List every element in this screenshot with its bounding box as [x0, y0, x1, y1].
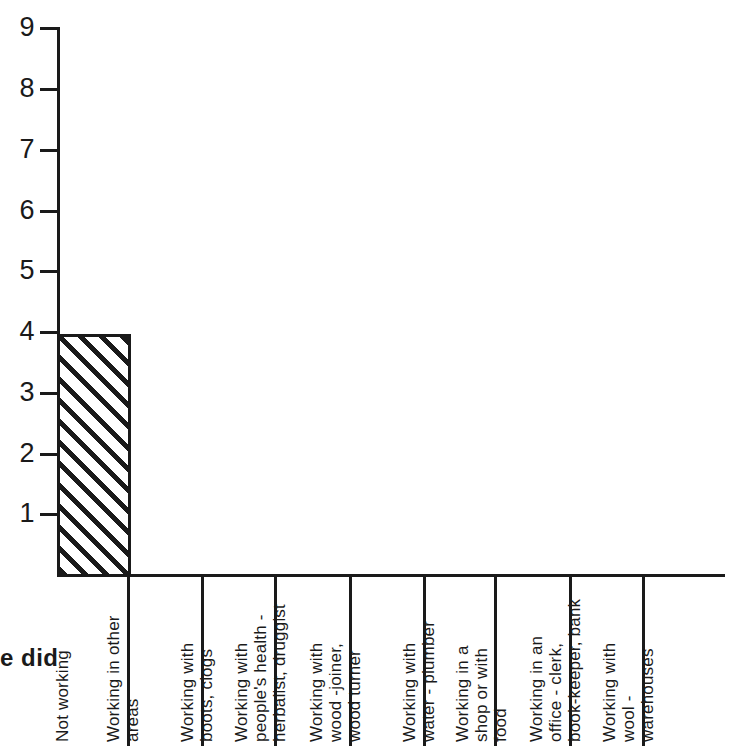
- category-line: areas: [123, 615, 142, 742]
- category-line: wood turner: [345, 643, 364, 742]
- category-label-working-with-peoples-health: Working with people's health - herbalist…: [232, 604, 289, 742]
- category-line: food: [491, 645, 510, 742]
- category-line: wood -joiner,: [326, 643, 345, 742]
- category-line: Working with: [600, 643, 619, 742]
- category-line: Working in an: [527, 599, 546, 742]
- y-tick-mark-1: [40, 513, 58, 516]
- category-label-working-in-an-office: Working in an office - clerk, book-keepe…: [527, 599, 584, 742]
- y-tick-label-6: 6: [0, 197, 34, 224]
- axis-title-partial: e did: [0, 644, 59, 672]
- bar-not-working: [57, 334, 131, 577]
- y-tick-mark-9: [40, 27, 58, 30]
- category-line: Working with: [232, 604, 251, 742]
- bar-chart: 9 8 7 6 5 4 3 2 1 Not working Working in…: [0, 0, 742, 746]
- category-line: herbalist, druggist: [270, 604, 289, 742]
- x-axis-line: [57, 574, 725, 577]
- y-tick-mark-8: [40, 88, 58, 91]
- y-tick-mark-6: [40, 210, 58, 213]
- category-line: office - clerk,: [546, 599, 565, 742]
- category-line: Working with: [307, 643, 326, 742]
- category-label-working-in-a-shop-or-food: Working in a shop or with food: [453, 645, 510, 742]
- category-line: Working in other: [104, 615, 123, 742]
- category-label-working-in-other-areas: Working in other areas: [104, 615, 142, 742]
- category-line: shop or with: [472, 645, 491, 742]
- y-tick-label-9: 9: [0, 14, 34, 41]
- y-tick-label-3: 3: [0, 379, 34, 406]
- y-tick-label-2: 2: [0, 440, 34, 467]
- y-tick-mark-4: [40, 331, 58, 334]
- y-tick-label-7: 7: [0, 136, 34, 163]
- category-label-working-with-boots-clogs: Working with boots, clogs: [178, 643, 216, 742]
- category-line: Working with: [178, 643, 197, 742]
- category-line: people's health -: [251, 604, 270, 742]
- category-line: book-keeper, bank: [565, 599, 584, 742]
- category-label-working-with-water: Working with water - plumber: [400, 621, 438, 742]
- category-line: boots, clogs: [197, 643, 216, 742]
- y-tick-mark-2: [40, 453, 58, 456]
- category-label-working-with-wood: Working with wood -joiner, wood turner: [307, 643, 364, 742]
- category-line: Working with: [400, 621, 419, 742]
- category-line: wool -: [619, 643, 638, 742]
- y-tick-mark-5: [40, 270, 58, 273]
- y-tick-label-8: 8: [0, 75, 34, 102]
- y-tick-label-1: 1: [0, 500, 34, 527]
- category-line: Working in a: [453, 645, 472, 742]
- y-tick-label-5: 5: [0, 257, 34, 284]
- y-tick-mark-3: [40, 392, 58, 395]
- category-line: warehouses: [638, 643, 657, 742]
- y-tick-label-4: 4: [0, 318, 34, 345]
- y-tick-mark-7: [40, 149, 58, 152]
- category-line: water - plumber: [419, 621, 438, 742]
- category-label-working-with-wool: Working with wool - warehouses: [600, 643, 657, 742]
